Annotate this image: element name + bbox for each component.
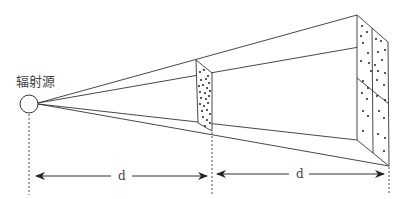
distance-label-1: d [118,169,126,183]
radiation-source-icon [20,95,38,113]
far-area-slab [357,15,389,166]
radiation-rays [38,15,389,166]
distance-arrows [36,174,384,176]
inverse-square-diagram: 辐射源 [0,0,401,199]
near-area-slab [196,60,212,131]
distance-label-2: d [296,167,304,181]
source-label: 辐射源 [16,74,55,89]
